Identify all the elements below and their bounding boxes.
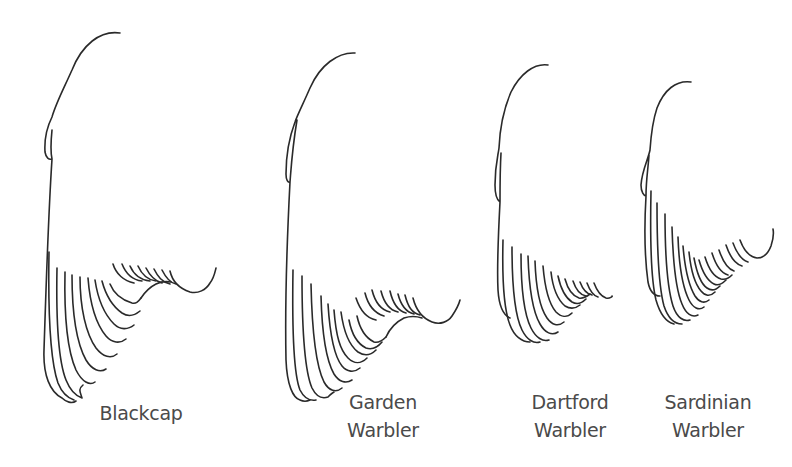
label-sardinian-warbler-line-2: Warbler [665, 416, 752, 444]
label-dartford-warbler-line-1: Dartford [532, 388, 609, 416]
label-dartford-warbler: Dartford Warbler [532, 388, 609, 444]
label-blackcap: Blackcap [99, 399, 182, 427]
wing-blackcap [44, 33, 216, 403]
wing-garden-warbler [286, 53, 460, 401]
wing-dartford-warbler [495, 65, 612, 343]
label-sardinian-warbler: Sardinian Warbler [665, 388, 752, 444]
label-blackcap-line-1: Blackcap [99, 399, 182, 427]
label-garden-warbler-line-1: Garden [347, 388, 419, 416]
label-garden-warbler-line-2: Warbler [347, 416, 419, 444]
wing-comparison-figure: Blackcap Garden Warbler Dartford Warbler… [0, 0, 792, 467]
wing-sardinian-warbler [641, 82, 773, 324]
label-dartford-warbler-line-2: Warbler [532, 416, 609, 444]
label-garden-warbler: Garden Warbler [347, 388, 419, 444]
label-sardinian-warbler-line-1: Sardinian [665, 388, 752, 416]
